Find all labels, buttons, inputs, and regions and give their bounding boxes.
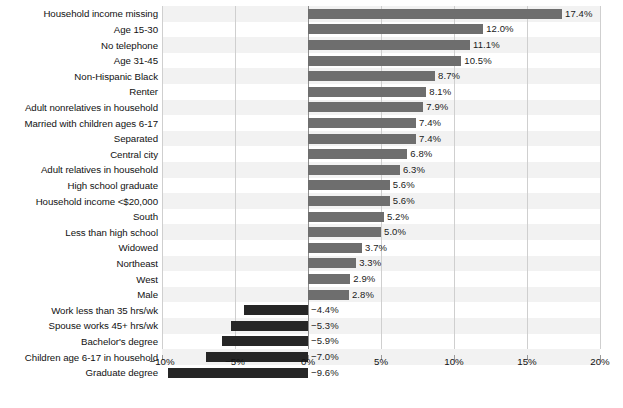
x-axis-tick-label: 20% xyxy=(590,356,609,368)
category-label: Spouse works 45+ hrs/wk xyxy=(0,320,158,331)
bar-value-label: 17.4% xyxy=(565,9,592,19)
category-label: Northeast xyxy=(0,258,158,269)
category-label: Adult nonrelatives in household xyxy=(0,102,158,113)
bar xyxy=(308,134,416,144)
bar-value-label: 6.3% xyxy=(403,165,425,175)
bar xyxy=(308,243,362,253)
bar-value-label: 7.4% xyxy=(419,134,441,144)
bar-value-label: 8.7% xyxy=(438,71,460,81)
bar xyxy=(222,336,308,346)
gridline xyxy=(527,6,528,349)
bar-chart: Household income missingAge 15-30No tele… xyxy=(0,0,623,408)
category-label: West xyxy=(0,274,158,285)
bar-value-label: 5.6% xyxy=(393,196,415,206)
bar xyxy=(308,165,400,175)
bar xyxy=(308,102,423,112)
bar xyxy=(308,87,426,97)
bar-value-label: 7.4% xyxy=(419,118,441,128)
bar-value-label: 10.5% xyxy=(464,56,491,66)
bar-value-label: 5.6% xyxy=(393,180,415,190)
bar-value-label: 5.0% xyxy=(384,227,406,237)
bar xyxy=(308,118,416,128)
category-label: Adult relatives in household xyxy=(0,164,158,175)
gridline xyxy=(600,6,601,349)
category-label: Work less than 35 hrs/wk xyxy=(0,305,158,316)
category-label: Age 15-30 xyxy=(0,24,158,35)
bar xyxy=(308,149,407,159)
bar-value-label: 2.9% xyxy=(353,274,375,284)
x-axis-tick-label: 0% xyxy=(301,356,315,368)
x-axis-tick-label: −5% xyxy=(225,356,245,368)
x-axis-tick-label: 10% xyxy=(444,356,463,368)
bar-value-label: 2.8% xyxy=(352,290,374,300)
bar xyxy=(308,290,349,300)
category-label: No telephone xyxy=(0,40,158,51)
bar xyxy=(308,258,356,268)
bar-value-label: 3.7% xyxy=(365,243,387,253)
bar-value-label: 3.3% xyxy=(359,258,381,268)
category-label: Widowed xyxy=(0,242,158,253)
category-label: Central city xyxy=(0,149,158,160)
category-label: High school graduate xyxy=(0,180,158,191)
bar xyxy=(308,212,384,222)
bar xyxy=(231,321,308,331)
category-label: Renter xyxy=(0,86,158,97)
category-label: Married with children ages 6-17 xyxy=(0,118,158,129)
bar xyxy=(308,274,350,284)
category-label: Male xyxy=(0,289,158,300)
x-axis-tick-labels: −10%−5%0%5%10%15%20% xyxy=(0,356,623,376)
bar-value-label: 7.9% xyxy=(426,102,448,112)
x-axis-tick-label: 5% xyxy=(374,356,388,368)
category-label: Separated xyxy=(0,133,158,144)
bar-value-label: 6.8% xyxy=(410,149,432,159)
bar xyxy=(308,180,390,190)
category-label: Bachelor's degree xyxy=(0,336,158,347)
category-label: Non-Hispanic Black xyxy=(0,71,158,82)
bar-value-label: −5.9% xyxy=(311,336,339,346)
category-label: South xyxy=(0,211,158,222)
bar-value-label: −5.3% xyxy=(311,321,339,331)
category-label: Household income <$20,000 xyxy=(0,196,158,207)
bar xyxy=(308,71,435,81)
bar-value-label: 5.2% xyxy=(387,212,409,222)
plot-area: 17.4%12.0%11.1%10.5%8.7%8.1%7.9%7.4%7.4%… xyxy=(162,6,600,349)
bar xyxy=(308,56,461,66)
gridline xyxy=(235,6,236,349)
bar-value-label: −4.4% xyxy=(311,305,339,315)
x-axis-tick-label: 15% xyxy=(517,356,536,368)
category-label: Age 31-45 xyxy=(0,55,158,66)
bar xyxy=(308,24,483,34)
bar xyxy=(308,9,562,19)
x-axis-tick-label: −10% xyxy=(149,356,174,368)
category-label: Household income missing xyxy=(0,8,158,19)
bar xyxy=(308,196,390,206)
bar-value-label: 8.1% xyxy=(429,87,451,97)
bar xyxy=(244,305,308,315)
category-label: Less than high school xyxy=(0,227,158,238)
bar-value-label: 12.0% xyxy=(486,24,513,34)
bar xyxy=(308,227,381,237)
category-label-column: Household income missingAge 15-30No tele… xyxy=(0,6,158,349)
bar xyxy=(308,40,470,50)
bar-value-label: 11.1% xyxy=(473,40,500,50)
gridline xyxy=(162,6,163,349)
